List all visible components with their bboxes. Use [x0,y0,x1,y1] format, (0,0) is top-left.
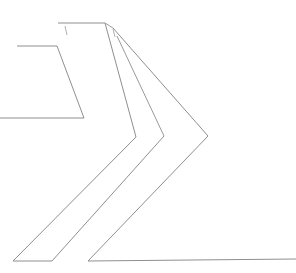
chevron-line-art-figure [0,0,296,273]
canvas-background [0,0,296,273]
drawing-canvas [0,0,296,273]
